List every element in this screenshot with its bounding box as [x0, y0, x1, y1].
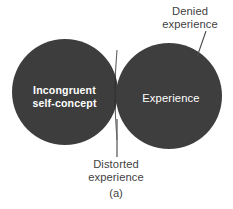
- denied-experience-label-line1: Denied: [172, 5, 208, 17]
- experience-label: Experience: [127, 92, 215, 105]
- distorted-experience-label: Distortedexperience: [64, 158, 168, 184]
- distorted-experience-label-line1: Distorted: [93, 158, 139, 170]
- figure-caption: (a): [90, 187, 142, 200]
- figure-container: Incongruentself-concept Experience Denie…: [0, 0, 233, 209]
- incongruent-self-concept-label-line2: self-concept: [32, 97, 96, 109]
- denied-experience-label-line2: experience: [162, 18, 218, 30]
- distorted-experience-label-line2: experience: [88, 171, 144, 183]
- denied-experience-leader-line: [197, 31, 206, 57]
- incongruent-self-concept-label-line1: Incongruent: [33, 84, 96, 96]
- denied-experience-label: Deniedexperience: [148, 5, 232, 31]
- incongruent-self-concept-label: Incongruentself-concept: [16, 84, 113, 110]
